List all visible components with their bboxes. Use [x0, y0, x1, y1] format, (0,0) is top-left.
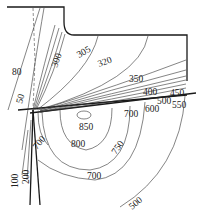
isotherm-label-305: 305: [75, 44, 93, 60]
isotherm-label-700-chip: 700: [124, 109, 139, 119]
isotherm-label-450: 450: [170, 88, 185, 98]
isotherm-label-300: 300: [49, 52, 63, 69]
isotherm-label-850: 850: [79, 122, 94, 132]
isotherm-label-700-workpiece: 700: [87, 171, 102, 181]
isotherm-label-800: 800: [71, 139, 86, 149]
isotherm-label-550: 550: [172, 100, 187, 110]
isotherm-label-750: 750: [109, 139, 126, 157]
isotherm-label-500-workpiece: 500: [127, 195, 145, 212]
isotherm-label-100: 100: [10, 174, 20, 189]
dashed-reference-line: [33, 8, 35, 110]
isotherms-left: [8, 8, 186, 180]
isotherm-label-320: 320: [96, 55, 113, 69]
isotherm-label-350: 350: [129, 74, 144, 84]
isotherm-label-600: 600: [145, 104, 160, 114]
isotherm-label-50: 50: [14, 93, 26, 105]
isotherm-label-80: 80: [12, 67, 22, 77]
isotherm-label-200: 200: [21, 170, 31, 185]
temperature-isotherm-diagram: 80 50 300 305 320 350 400 450 500 550 60…: [0, 0, 203, 217]
isotherm-label-400: 400: [143, 87, 158, 97]
